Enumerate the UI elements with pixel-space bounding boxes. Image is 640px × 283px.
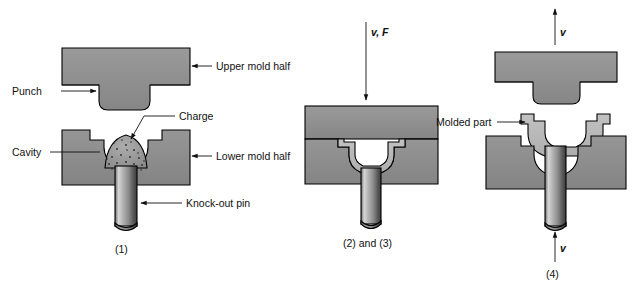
compression-molding-diagram: Upper mold half Punch Charge Cavity Lowe…	[0, 0, 640, 283]
panel-2: v, F (2) and (3)	[305, 22, 438, 249]
panel3-bottom-velocity-arrow: v	[555, 232, 567, 262]
label-punch: Punch	[12, 85, 42, 97]
panel3-annotations: Molded part	[436, 116, 525, 128]
panel2-knock-out-pin	[361, 168, 381, 229]
label-knock-out-pin: Knock-out pin	[186, 197, 250, 209]
panel3-upper-mold-half	[495, 52, 617, 104]
panel3-caption: (4)	[546, 268, 559, 280]
label-cavity: Cavity	[12, 146, 42, 158]
panel2-force-arrow: v, F	[366, 22, 389, 100]
label-upper-mold-half: Upper mold half	[216, 60, 290, 72]
panel1-upper-mold-half	[62, 48, 190, 110]
panel1-caption: (1)	[115, 243, 128, 255]
panel1-knock-out-pin	[115, 166, 137, 231]
label-lower-mold-half: Lower mold half	[216, 150, 290, 162]
label-charge: Charge	[179, 110, 214, 122]
panel-3: v Molded part v (4)	[436, 9, 626, 280]
panel1-charge	[105, 135, 147, 171]
panel-1: Upper mold half Punch Charge Cavity Lowe…	[12, 48, 290, 255]
label-velocity-bottom: v	[560, 242, 567, 254]
label-molded-part: Molded part	[436, 116, 492, 128]
label-velocity-top: v	[560, 26, 567, 38]
panel3-knock-out-pin	[545, 146, 566, 231]
panel2-caption: (2) and (3)	[343, 237, 392, 249]
panel3-top-velocity-arrow: v	[555, 9, 567, 45]
label-velocity-force: v, F	[371, 26, 389, 38]
